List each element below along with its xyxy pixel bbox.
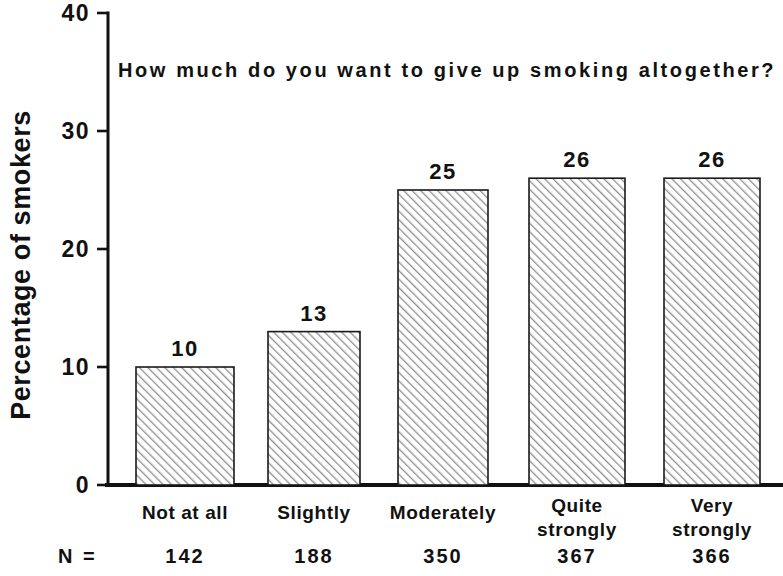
n-value-label: 367 [557,545,596,567]
bar [268,332,360,485]
bar-value-label: 10 [171,336,198,361]
x-category-label: Moderately [390,502,496,523]
x-category-label: Not at all [142,502,228,523]
bar [136,367,234,485]
y-tick-label: 0 [76,472,90,498]
chart-title: How much do you want to give up smoking … [118,59,776,81]
bar-value-label: 25 [429,159,456,184]
bar-chart-figure: Percentage of smokers How much do you wa… [0,0,783,576]
y-tick-label: 10 [61,354,90,380]
y-tick-label: 30 [61,118,90,144]
bar [529,178,625,485]
y-axis-title: Percentage of smokers [6,110,36,420]
x-category-label: Very [691,495,734,516]
n-value-label: 188 [294,545,333,567]
chart-canvas: Percentage of smokers How much do you wa… [0,0,783,576]
y-tick-label: 40 [61,0,90,26]
n-value-label: 366 [692,545,731,567]
n-row-prefix: N = [58,545,97,567]
bar-value-label: 26 [698,147,725,172]
bar [398,190,488,485]
n-value-label: 142 [165,545,204,567]
y-tick-label: 20 [61,236,90,262]
n-value-label: 350 [423,545,462,567]
bar [664,178,760,485]
x-category-label: Slightly [277,502,350,523]
x-category-label: strongly [537,519,617,540]
x-category-label: strongly [672,519,752,540]
x-category-label: Quite [551,495,603,516]
bar-value-label: 26 [563,147,590,172]
bar-value-label: 13 [300,301,327,326]
